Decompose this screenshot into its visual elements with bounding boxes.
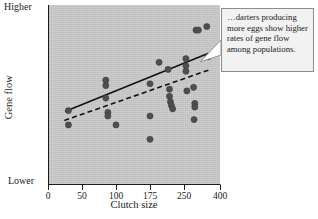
data-point [184, 88, 190, 94]
y-axis-title: Gene flow [4, 67, 15, 127]
data-point [113, 122, 119, 128]
data-point [103, 82, 109, 88]
regression-line-solid [65, 53, 208, 111]
data-point [170, 106, 176, 112]
data-point [103, 95, 109, 101]
data-point [191, 84, 197, 90]
x-axis-title: Clutch size [48, 200, 220, 211]
scatter-points [65, 23, 211, 142]
regression-lines [64, 53, 210, 120]
data-point [147, 113, 153, 119]
data-point [105, 113, 111, 119]
data-point [65, 122, 71, 128]
data-point [65, 108, 71, 114]
figure-scatter-gene-flow: 050100175250400 Higher Lower Gene flow C… [0, 0, 318, 219]
data-point [204, 23, 210, 29]
y-axis-low-label: Lower [8, 176, 34, 186]
data-point [156, 59, 162, 65]
data-point [183, 56, 189, 62]
data-point [147, 81, 153, 87]
y-axis-high-label: Higher [4, 2, 32, 12]
regression-line-dashed [64, 69, 210, 120]
callout-box: …darters producing more eggs show higher… [221, 8, 314, 72]
data-point [191, 116, 197, 122]
data-point [147, 136, 153, 142]
data-point [195, 27, 201, 33]
data-point [183, 68, 189, 74]
data-point [165, 66, 171, 72]
callout-leader-line [200, 40, 221, 62]
data-point [192, 104, 198, 110]
data-point [166, 86, 172, 92]
x-axis-ticks [49, 185, 221, 191]
